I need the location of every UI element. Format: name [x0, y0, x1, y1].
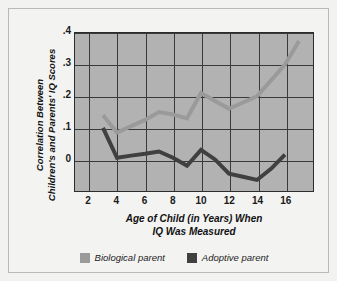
legend-label-biological-parent: Biological parent [95, 252, 165, 263]
x-tick-10: 10 [189, 195, 213, 206]
legend-item-biological-parent: Biological parent [80, 252, 165, 263]
y-tick-0: 0 [49, 153, 71, 164]
x-tick-2: 2 [76, 195, 100, 206]
series-line-biological-parent [103, 41, 299, 133]
legend-item-adoptive-parent: Adoptive parent [187, 252, 269, 263]
y-axis-tick-labels: 0.1.2.3.4 [45, 32, 71, 192]
y-tick-.2: .2 [49, 89, 71, 100]
x-tick-16: 16 [274, 195, 298, 206]
x-tick-8: 8 [161, 195, 185, 206]
y-tick-.3: .3 [49, 57, 71, 68]
data-series-layer [75, 33, 313, 191]
x-axis-title-line1: Age of Child (in Years) When [49, 212, 337, 225]
y-tick-.4: .4 [49, 25, 71, 36]
x-tick-14: 14 [246, 195, 270, 206]
legend-swatch-adoptive-parent [187, 253, 197, 263]
chart-legend: Biological parent Adoptive parent [49, 252, 299, 263]
x-axis-tick-labels: 246810121416 [74, 195, 314, 209]
x-tick-6: 6 [133, 195, 157, 206]
y-tick-.1: .1 [49, 121, 71, 132]
series-line-adoptive-parent [103, 128, 285, 180]
x-axis-title-line2: IQ Was Measured [49, 225, 337, 238]
chart-frame: Correlation Between Children's and Paren… [8, 8, 329, 273]
legend-label-adoptive-parent: Adoptive parent [202, 252, 269, 263]
legend-swatch-biological-parent [80, 253, 90, 263]
x-axis-title: Age of Child (in Years) When IQ Was Meas… [49, 212, 337, 238]
x-tick-12: 12 [217, 195, 241, 206]
plot-area [74, 32, 314, 192]
x-tick-4: 4 [104, 195, 128, 206]
